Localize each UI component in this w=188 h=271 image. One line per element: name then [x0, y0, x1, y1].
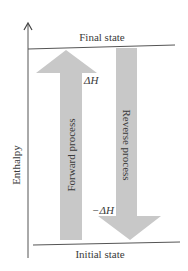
reverse-process-label: Reverse process	[121, 109, 133, 180]
initial-state-label: Initial state	[75, 248, 124, 260]
final-state-label: Final state	[79, 31, 125, 43]
initial-state-line	[33, 242, 180, 245]
forward-process-label: Forward process	[65, 118, 77, 191]
final-state-line	[28, 45, 175, 49]
y-axis-label: Enthalpy	[10, 145, 22, 185]
negative-delta-h-label: −ΔH	[92, 204, 115, 216]
delta-h-label: ΔH	[83, 74, 99, 86]
enthalpy-diagram: Final state Initial state Enthalpy Forwa…	[0, 0, 188, 271]
